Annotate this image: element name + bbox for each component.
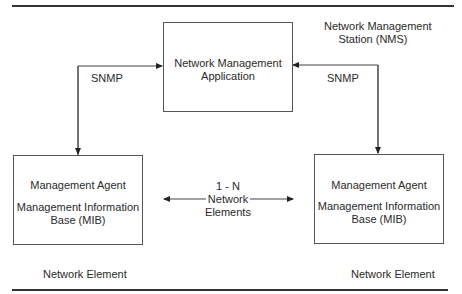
center-label-line2: Network bbox=[198, 193, 258, 206]
center-label-line1: 1 - N bbox=[198, 180, 258, 193]
left-snmp-label: SNMP bbox=[91, 72, 123, 85]
left-agent-line1: Management Agent bbox=[14, 179, 142, 192]
right-agent-line2: Management Information bbox=[315, 200, 443, 213]
left-agent-box: Management Agent Management Information … bbox=[13, 155, 143, 245]
nms-app-line2: Application bbox=[164, 70, 292, 83]
right-agent-box: Management Agent Management Information … bbox=[314, 154, 444, 244]
left-agent-line2: Management Information bbox=[14, 201, 142, 214]
left-element-label: Network Element bbox=[43, 268, 127, 281]
nms-application-box: Network Management Application bbox=[163, 22, 293, 112]
station-label-line1: Network Management bbox=[324, 20, 414, 33]
right-agent-line3: Base (MIB) bbox=[315, 213, 443, 226]
nms-app-line1: Network Management bbox=[164, 57, 292, 70]
center-label-line3: Elements bbox=[198, 206, 258, 219]
right-snmp-label: SNMP bbox=[327, 72, 359, 85]
right-agent-line1: Management Agent bbox=[315, 179, 443, 192]
right-element-label: Network Element bbox=[351, 268, 435, 281]
left-agent-line3: Base (MIB) bbox=[14, 214, 142, 227]
station-label-line2: Station (NMS) bbox=[333, 33, 413, 46]
